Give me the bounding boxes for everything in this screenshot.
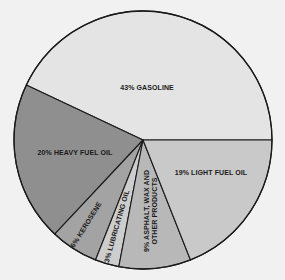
label-heavy-fuel-oil: 20% HEAVY FUEL OIL (38, 149, 114, 156)
label-asphalt-line1: 9% ASPHALT, WAX AND (143, 170, 151, 252)
label-gasoline: 43% GASOLINE (120, 84, 174, 91)
label-asphalt-line2: OTHER PRODUCTS (151, 177, 158, 244)
pie-chart: 43% GASOLINE 20% HEAVY FUEL OIL 6% KEROS… (0, 0, 285, 280)
label-light-fuel-oil: 19% LIGHT FUEL OIL (175, 169, 248, 176)
